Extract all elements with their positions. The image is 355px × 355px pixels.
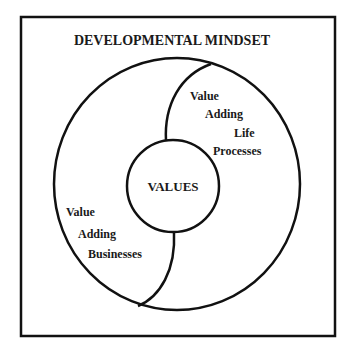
life-processes-line-4: Processes xyxy=(213,144,262,158)
values-label: VALUES xyxy=(147,179,198,194)
businesses-line-3: Businesses xyxy=(88,247,142,261)
life-processes-line-3: Life xyxy=(234,126,255,140)
life-processes-line-1: Value xyxy=(190,89,220,103)
businesses-line-1: Value xyxy=(66,205,96,219)
businesses-line-2: Adding xyxy=(78,227,116,241)
life-processes-line-2: Adding xyxy=(205,107,243,121)
developmental-mindset-diagram: DEVELOPMENTAL MINDSET VALUES Value Addin… xyxy=(0,0,355,355)
diagram-title: DEVELOPMENTAL MINDSET xyxy=(74,33,271,48)
lower-divider-curve xyxy=(138,232,174,306)
